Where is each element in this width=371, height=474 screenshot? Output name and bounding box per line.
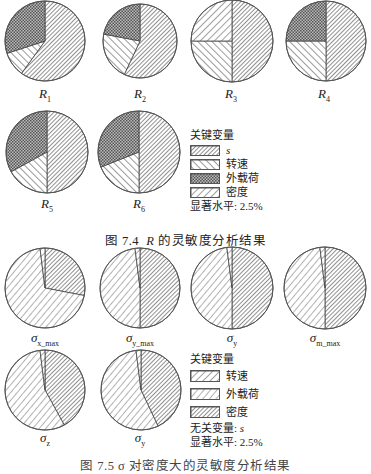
pie-sigma-2-slice: [100, 248, 140, 328]
pie-label-r1: R1: [15, 86, 75, 104]
pie-label-sigma-y: σy: [202, 330, 262, 348]
swatch-dense-diag-icon: [190, 406, 220, 418]
swatch-crosshatch-icon: [190, 173, 220, 184]
figure-caption-top: 图 7.4 R 的灵敏度分析结果: [0, 230, 371, 249]
pie-sigma-4-slice: [325, 247, 366, 329]
legend-item-load: 外载荷: [190, 171, 263, 185]
pie-label-r4: R4: [294, 86, 354, 104]
pie-label-sigma-y-2: σy: [110, 430, 170, 448]
legend-item-load: 外载荷: [190, 385, 263, 403]
pie-r4-slice: [286, 41, 326, 81]
pie-label-sigma-y-max: σy_max: [110, 330, 170, 348]
irrelevant-variable: 无关变量: s: [190, 421, 263, 435]
pie-r3-slice: [191, 41, 232, 82]
pie-sigma-3-slice: [232, 247, 273, 329]
pie-r5-slice: [47, 111, 88, 193]
legend-top: 关键变量 s 转速 外载荷 密度 显著水平: 2.5%: [190, 128, 263, 213]
pie-label-r3: R3: [201, 86, 261, 104]
swatch-fwd-light-icon: [190, 388, 220, 400]
pie-sigma-3-slice: [191, 247, 232, 329]
pie-r6-slice: [139, 111, 180, 193]
pie-label-r6: R6: [109, 196, 169, 214]
significance-level: 显著水平: 2.5%: [190, 435, 263, 449]
legend-item-density: 密度: [190, 403, 263, 421]
pie-r4-slice: [286, 1, 326, 41]
pie-sigma-1-slice: [45, 248, 85, 296]
legend-item-speed: 转速: [190, 367, 263, 385]
pie-label-sigma-z: σz: [15, 430, 75, 448]
pie-label-sigma-x-max: σx_max: [15, 330, 75, 348]
figure-caption-bottom: 图 7.5 σ 对密度大的灵敏度分析结果: [0, 455, 371, 474]
legend-title: 关键变量: [190, 128, 263, 142]
pie-label-r5: R5: [17, 196, 77, 214]
pie-sigma-4-slice: [284, 247, 325, 329]
significance-level: 显著水平: 2.5%: [190, 199, 263, 213]
legend-bottom: 关键变量 转速 外载荷 密度 无关变量: s 显著水平: 2.5%: [190, 352, 263, 449]
pie-sigma-2-slice: [140, 248, 180, 328]
pie-r3-slice: [191, 0, 232, 41]
pie-r2-slice: [104, 4, 140, 41]
swatch-fwd-diag-icon: [190, 187, 220, 198]
legend-item-s: s: [190, 143, 263, 157]
legend-item-density: 密度: [190, 185, 263, 199]
pie-label-r2: R2: [110, 86, 170, 104]
pie-r3-slice: [232, 0, 273, 82]
pie-label-sigma-m-max: σm_max: [295, 330, 355, 348]
swatch-dense-diag-icon: [190, 145, 220, 156]
swatch-fwd-diag-icon: [190, 370, 220, 382]
legend-item-speed: 转速: [190, 157, 263, 171]
legend-title: 关键变量: [190, 352, 263, 366]
pie-r4-slice: [326, 1, 366, 81]
swatch-back-diag-icon: [190, 159, 220, 170]
